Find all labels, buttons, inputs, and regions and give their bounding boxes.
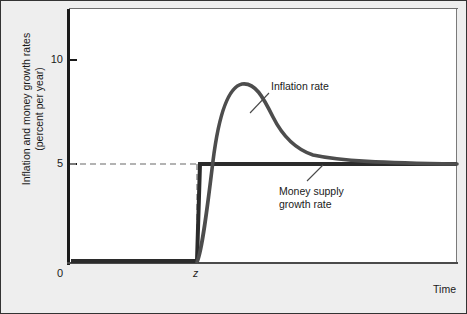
inflation-rate-curve [197,84,457,262]
money-supply-leader-line [307,165,323,181]
money-supply-growth-rate-annotation: Money supply growth rate [279,185,344,211]
money-supply-growth-rate-curve [71,164,457,261]
inflation-rate-annotation: Inflation rate [271,80,329,93]
chart-curves-layer [1,1,467,314]
figure-container: Inflation and money growth rates (percen… [0,0,467,314]
